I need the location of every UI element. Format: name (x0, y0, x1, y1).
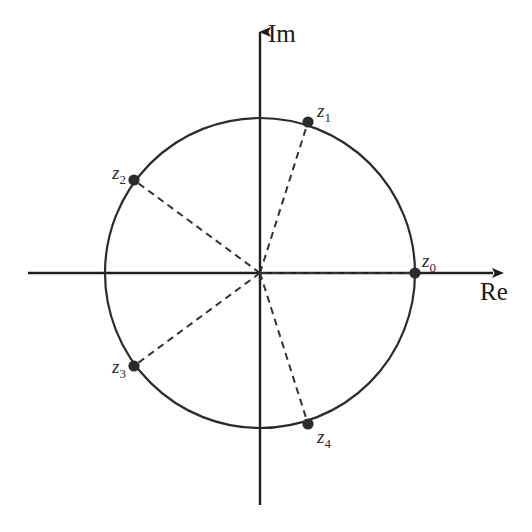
root-label-subscript: 4 (324, 436, 331, 451)
root-point-z4 (302, 418, 313, 429)
root-label-z1: z1 (316, 100, 331, 125)
root-label-subscript: 3 (120, 366, 127, 381)
root-label-z2: z2 (111, 162, 126, 187)
root-label-subscript: 0 (429, 260, 436, 275)
root-point-z2 (128, 174, 139, 185)
axis-labels-group: z0z1z2z3z4ReIm (111, 20, 508, 451)
root-label-subscript: 1 (324, 110, 331, 125)
root-label-subscript: 2 (120, 172, 127, 187)
real-axis-label: Re (480, 278, 508, 305)
radius-line-z3 (134, 273, 260, 366)
root-point-z3 (128, 360, 139, 371)
root-label-z4: z4 (316, 426, 331, 451)
root-point-z0 (409, 267, 420, 278)
radius-line-z2 (134, 180, 260, 273)
complex-plane-figure: z0z1z2z3z4ReIm (0, 0, 532, 532)
radius-line-z4 (260, 273, 308, 424)
root-label-z3: z3 (111, 356, 126, 381)
figure-canvas: z0z1z2z3z4ReIm (0, 0, 532, 532)
root-point-z1 (302, 116, 313, 127)
radius-line-z1 (260, 122, 308, 273)
root-label-z0: z0 (421, 250, 436, 275)
imaginary-axis-label: Im (268, 20, 296, 47)
